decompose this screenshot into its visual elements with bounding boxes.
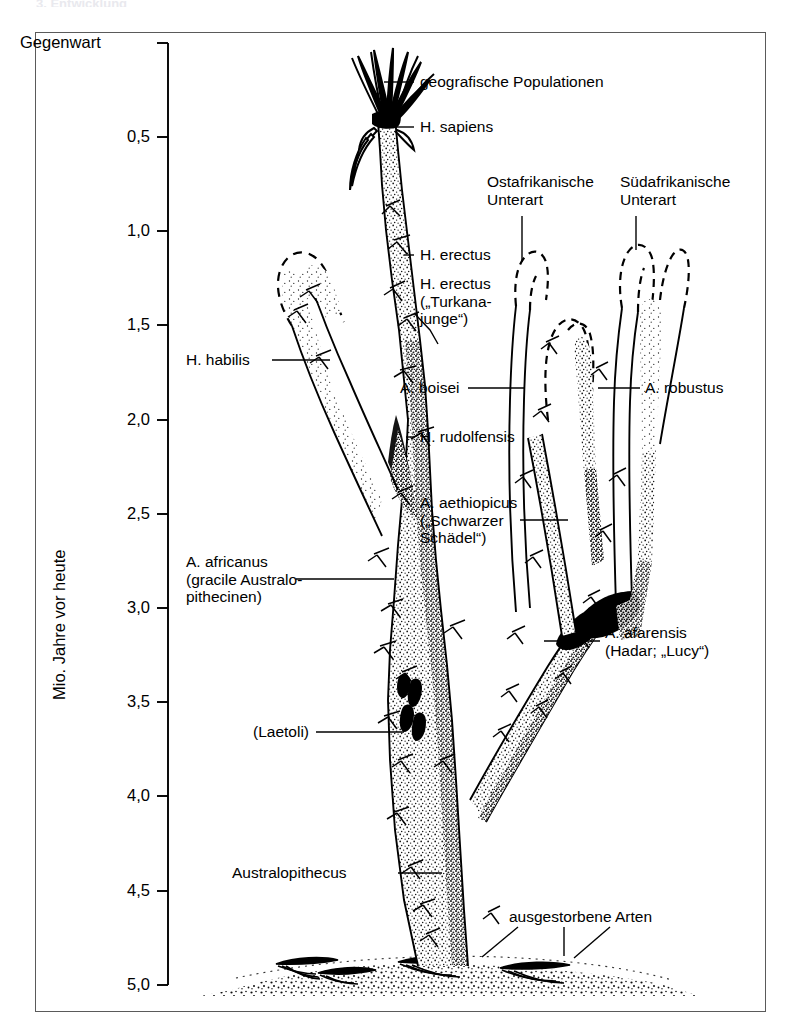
axis-tick-3-5: 3,5 <box>70 692 150 711</box>
label-laetoli: (Laetoli) <box>253 723 309 741</box>
axis-tick-0-5: 0,5 <box>70 127 150 146</box>
label-australopithecus: Australopithecus <box>232 864 347 882</box>
axis-top-label: Gegenwart <box>20 33 150 52</box>
label-h-erectus: H. erectus <box>420 246 491 264</box>
label-a-aethiopicus: A. aethiopicus („Schwarzer Schädel“) <box>420 494 517 547</box>
axis-tick-1-5: 1,5 <box>70 315 150 334</box>
axis-tick-1-0: 1,0 <box>70 221 150 240</box>
axis-tick-3-0: 3,0 <box>70 598 150 617</box>
label-geografische-populationen: geografische Populationen <box>420 73 604 91</box>
axis-tick-5-0: 5,0 <box>70 975 150 994</box>
axis-tick-2-0: 2,0 <box>70 410 150 429</box>
label-h-erectus-turkanajunge: H. erectus („Turkana- junge“) <box>420 275 492 328</box>
label-suedafrikanische-unterart: Südafrikanische Unterart <box>620 173 730 208</box>
figure-page: 3. Entwicklung <box>0 0 795 1030</box>
label-ausgestorbene-arten: ausgestorbene Arten <box>509 908 652 926</box>
label-ostafrikanische-unterart: Ostafrikanische Unterart <box>487 173 594 208</box>
axis-tick-4-0: 4,0 <box>70 786 150 805</box>
axis-tick-4-5: 4,5 <box>70 881 150 900</box>
label-a-africanus: A. africanus (gracile Australo- pithecin… <box>186 553 302 606</box>
axis-tick-2-5: 2,5 <box>70 504 150 523</box>
label-h-sapiens: H. sapiens <box>420 118 493 136</box>
label-h-habilis: H. habilis <box>186 351 250 369</box>
label-a-boisei: A. boisei <box>400 379 459 397</box>
y-axis-title: Mio. Jahre vor heute <box>50 550 69 700</box>
label-a-afarensis: A. afarensis (Hadar; „Lucy“) <box>605 624 709 659</box>
y-axis <box>157 43 168 985</box>
label-h-rudolfensis: H. rudolfensis <box>420 428 515 446</box>
label-a-robustus: A. robustus <box>645 379 723 397</box>
